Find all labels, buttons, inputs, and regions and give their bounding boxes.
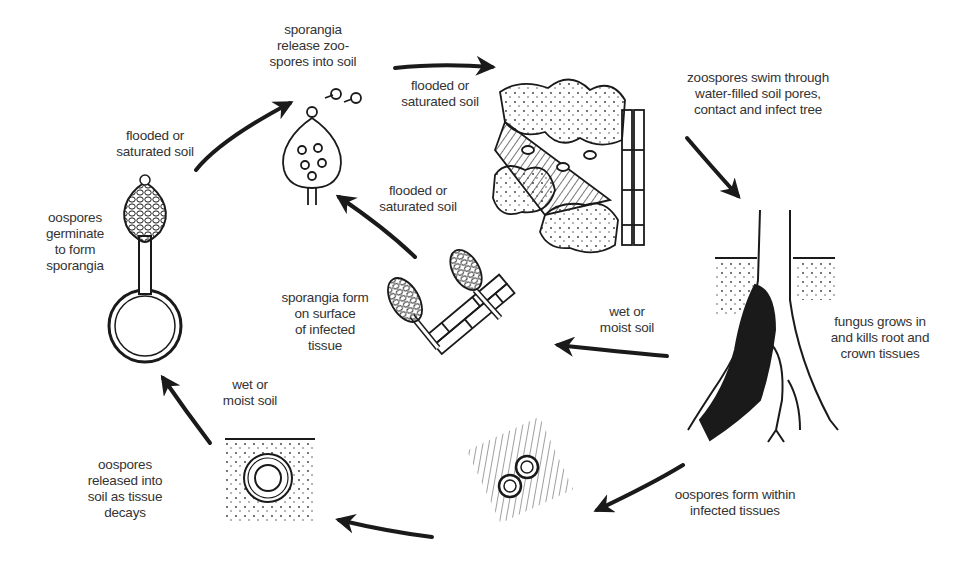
label-condition-flooded-center: flooded or saturated soil [363, 183, 473, 215]
arrow-oospores-form-to-released [339, 520, 432, 537]
label-sporangia-release: sporangia release zoo- spores into soil [248, 22, 378, 70]
oospores-in-tissue-illustration [467, 417, 573, 523]
label-fungus-grows: fungus grows in and kills root and crown… [810, 314, 950, 362]
label-zoospores-infect: zoospores swim through water-filled soil… [668, 70, 848, 118]
soil-pores-illustration [493, 79, 644, 252]
label-sporangia-form: sporangia form on surface of infected ti… [270, 290, 380, 354]
arrow-germinate-to-release [196, 103, 290, 170]
label-oospores-released: oospores released into soil as tissue de… [70, 457, 180, 521]
arrow-infect-to-tree [687, 138, 738, 196]
label-condition-flooded-left: flooded or saturated soil [100, 128, 210, 160]
arrow-release-to-infect [395, 65, 492, 68]
sporangia-tissue-illustration [381, 244, 515, 354]
label-condition-flooded-top: flooded or saturated soil [385, 78, 495, 110]
arrow-released-to-germinate [163, 378, 210, 443]
label-oospores-form: oospores form within infected tissues [650, 487, 820, 519]
label-condition-wet-right: wet or moist soil [582, 304, 672, 336]
oospore-in-soil-illustration [225, 439, 315, 521]
label-condition-wet-left: wet or moist soil [205, 377, 295, 409]
sporangium-release-illustration [283, 89, 361, 205]
arrow-tree-to-sporangia-form [558, 345, 667, 356]
label-oospores-germinate: oospores germinate to form sporangia [25, 210, 125, 274]
